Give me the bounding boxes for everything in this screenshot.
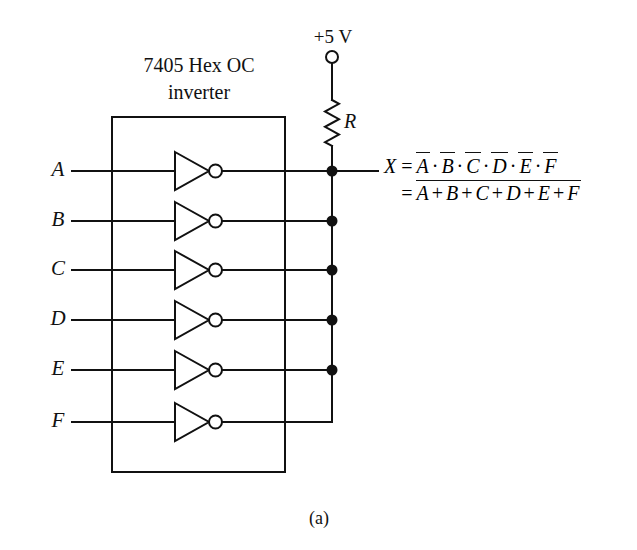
input-label-D: D (47, 306, 69, 331)
equation-product-operator: · (533, 155, 544, 177)
equation-term-not-B: B (440, 155, 454, 177)
wire-layer (72, 51, 378, 472)
equation-term-not-A: A (416, 155, 430, 177)
input-label-C: C (47, 256, 69, 281)
equation-product-expression: A·B·C·D·E·F (416, 156, 558, 176)
inverter-bubble-E (209, 364, 222, 377)
inverter-bubble-A (209, 165, 222, 178)
inverter-triangle-A (175, 152, 209, 190)
junction-dot-B (327, 216, 338, 227)
ic-title-label: 7405 Hex OC inverter (113, 52, 285, 106)
junction-dot-E (327, 365, 338, 376)
figure-container: 7405 Hex OC inverter +5 V R ABCDEF X = A… (0, 0, 637, 550)
equation-sum-operator: + (550, 182, 567, 204)
equation-product-operator: · (430, 155, 441, 177)
pullup-resistor (325, 100, 339, 146)
figure-caption: (a) (292, 508, 346, 529)
equation-sum-expression: A+B+C+D+E+F (416, 183, 581, 203)
equation-line-2: X = A+B+C+D+E+F (384, 183, 581, 203)
equation-term-not-F: F (543, 155, 557, 177)
equation-term-E: E (538, 182, 550, 204)
equation-product-operator: · (481, 155, 492, 177)
resistor-label: R (344, 110, 356, 133)
output-equation: X = A·B·C·D·E·F X = A+B+C+D+E+F (384, 156, 581, 203)
supply-voltage-label: +5 V (302, 26, 364, 48)
equation-line-1: X = A·B·C·D·E·F (384, 156, 581, 176)
junction-dot-A (327, 166, 338, 177)
inverter-bubble-C (209, 264, 222, 277)
equation-term-A: A (417, 182, 429, 204)
input-label-A: A (47, 157, 69, 182)
equation-term-not-E: E (518, 155, 532, 177)
equation-product-operator: · (455, 155, 466, 177)
inverter-triangle-F (175, 403, 209, 441)
circuit-schematic (0, 0, 637, 550)
equation-term-C: C (476, 182, 489, 204)
equation-sum-operator: + (429, 182, 446, 204)
equation-equals-sign-2: = (401, 183, 412, 203)
inverter-bubble-D (209, 314, 222, 327)
equation-term-not-D: D (491, 155, 507, 177)
input-label-F: F (47, 408, 69, 433)
equation-output-variable: X (384, 156, 396, 176)
equation-term-D: D (506, 182, 520, 204)
equation-term-B: B (446, 182, 458, 204)
inverter-triangle-D (175, 301, 209, 339)
inverter-bubble-B (209, 215, 222, 228)
equation-term-F: F (567, 182, 579, 204)
equation-sum-operator: + (458, 182, 475, 204)
equation-product-operator: · (508, 155, 519, 177)
input-label-E: E (47, 356, 69, 381)
inverter-triangle-E (175, 351, 209, 389)
inverter-triangle-B (175, 202, 209, 240)
equation-sum-operator: + (489, 182, 506, 204)
input-label-B: B (47, 207, 69, 232)
junction-dot-C (327, 265, 338, 276)
equation-equals-sign-1: = (401, 156, 412, 176)
inverter-gate-layer (175, 152, 222, 441)
inverter-triangle-C (175, 251, 209, 289)
equation-sum-operator: + (521, 182, 538, 204)
inverter-bubble-F (209, 416, 222, 429)
junction-dot-D (327, 315, 338, 326)
supply-terminal-node (326, 51, 338, 63)
equation-term-not-C: C (465, 155, 480, 177)
